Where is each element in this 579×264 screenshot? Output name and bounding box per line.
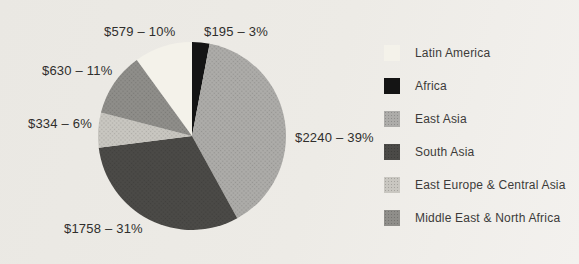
slice-label-east-asia: $2240 – 39% [295, 130, 374, 145]
legend-item-south-asia: South Asia [384, 144, 566, 160]
slice-label-latin-america: $579 – 10% [104, 24, 175, 39]
legend: Latin America Africa East Asia South Asi… [384, 45, 566, 226]
legend-label: East Asia [415, 112, 467, 126]
legend-swatch-east-europe-central-asia [384, 177, 400, 193]
chart-canvas: $579 – 10% $195 – 3% $2240 – 39% $1758 –… [0, 0, 579, 264]
slice-label-middle-east-north-africa: $630 – 11% [42, 63, 112, 78]
legend-swatch-east-asia [384, 111, 400, 127]
slice-label-south-asia: $1758 – 31% [64, 221, 143, 236]
legend-item-africa: Africa [384, 78, 566, 94]
legend-label: Middle East & North Africa [415, 211, 560, 225]
legend-item-east-europe-central-asia: East Europe & Central Asia [384, 177, 566, 193]
legend-swatch-middle-east-north-africa [384, 210, 400, 226]
legend-item-east-asia: East Asia [384, 111, 566, 127]
legend-item-middle-east-north-africa: Middle East & North Africa [384, 210, 566, 226]
legend-label: Latin America [415, 46, 490, 60]
legend-swatch-south-asia [384, 144, 400, 160]
legend-label: South Asia [415, 145, 474, 159]
slice-label-africa: $195 – 3% [204, 24, 268, 39]
legend-label: Africa [415, 79, 447, 93]
legend-item-latin-america: Latin America [384, 45, 566, 61]
slice-label-east-europe-central-asia: $334 – 6% [28, 116, 92, 131]
legend-swatch-latin-america [384, 45, 400, 61]
legend-swatch-africa [384, 78, 400, 94]
legend-label: East Europe & Central Asia [415, 178, 566, 192]
